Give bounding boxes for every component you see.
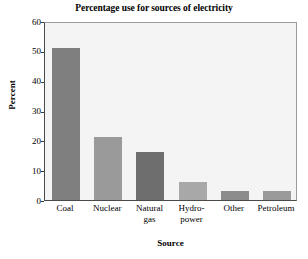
bar	[94, 137, 122, 200]
y-tick-label: 40	[1, 77, 41, 86]
x-tick-label-line: Nuclear	[93, 203, 121, 213]
bar-chart-figure: Percentage use for sources of electricit…	[0, 0, 308, 259]
y-tick-label: 50	[1, 47, 41, 56]
bar	[221, 191, 249, 200]
bar	[52, 48, 80, 200]
x-axis-tick-labels: CoalNuclearNaturalgasHydro-powerOtherPet…	[44, 203, 297, 237]
y-tick-label: 30	[1, 107, 41, 116]
x-tick-label-line: Hydro-	[179, 203, 205, 213]
x-tick-label-line: Petroleum	[257, 203, 294, 213]
x-tick-label-line: power	[162, 214, 222, 225]
x-tick-label-line: Natural	[136, 203, 163, 213]
bar	[136, 152, 164, 200]
bar	[179, 182, 207, 200]
plot-area	[44, 22, 297, 201]
x-tick-label-line: Other	[224, 203, 245, 213]
x-tick-label-line: Coal	[57, 203, 74, 213]
x-axis-title: Source	[44, 238, 297, 248]
y-tick-mark	[41, 201, 44, 202]
y-axis-tick-labels: 0102030405060	[0, 22, 41, 201]
y-tick-label: 10	[1, 167, 41, 176]
y-tick-label: 20	[1, 137, 41, 146]
bar	[263, 191, 291, 200]
bars-layer	[45, 23, 296, 200]
y-tick-label: 60	[1, 18, 41, 27]
x-tick-label: Petroleum	[246, 203, 306, 214]
chart-title: Percentage use for sources of electricit…	[0, 3, 308, 13]
